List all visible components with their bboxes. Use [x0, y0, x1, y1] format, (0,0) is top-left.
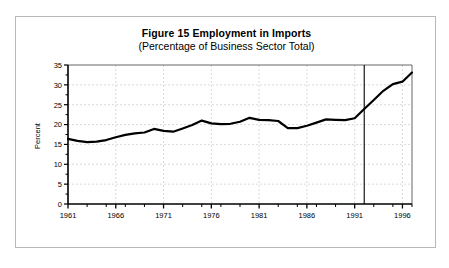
y-axis-tick-label: 20	[54, 120, 62, 129]
y-axis-tick-label: 15	[54, 140, 62, 149]
x-axis-tick-label: 1971	[155, 211, 172, 220]
x-axis-tick-label: 1996	[394, 211, 411, 220]
x-axis-tick-label: 1986	[299, 211, 316, 220]
x-axis-tick-label: 1981	[251, 211, 268, 220]
x-axis-tick-label: 1961	[60, 211, 77, 220]
y-axis-tick-label: 0	[58, 200, 62, 209]
grid-layer	[68, 65, 412, 204]
data-line	[68, 73, 412, 143]
line-chart: 0510152025303519611966197119761981198619…	[15, 16, 436, 248]
x-axis-tick-label: 1976	[203, 211, 220, 220]
x-axis-tick-label: 1966	[107, 211, 124, 220]
y-axis-tick-label: 35	[54, 61, 62, 70]
figure-page: Figure 15 Employment in Imports (Percent…	[0, 0, 449, 268]
y-axis-tick-label: 30	[54, 81, 62, 90]
data-series-layer	[68, 73, 412, 143]
y-axis-label: Percent	[33, 122, 42, 149]
y-axis-tick-label: 25	[54, 101, 62, 110]
y-axis-tick-label: 5	[58, 180, 62, 189]
y-axis-tick-label: 10	[54, 160, 62, 169]
x-axis-tick-label: 1991	[346, 211, 363, 220]
